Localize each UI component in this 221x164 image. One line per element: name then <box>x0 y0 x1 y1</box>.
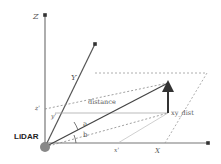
angle-b-arc <box>74 135 76 143</box>
angle-b-label: b <box>83 131 88 139</box>
distance-label: distance <box>88 98 116 106</box>
y-axis <box>45 44 95 147</box>
lidar-geometry-diagram: Z Y X z' y' x' distance xy_dist a b LiDA… <box>0 0 221 164</box>
y-prime-label: y' <box>50 112 56 120</box>
distance-vector <box>45 83 168 147</box>
z-prime-label: z' <box>34 104 40 111</box>
lidar-label: LiDAR <box>14 132 39 141</box>
z-axis-label: Z <box>32 12 39 21</box>
x-axis-label: X <box>154 147 161 155</box>
plane-right-edge <box>165 73 207 143</box>
angle-a-label: a <box>83 120 87 128</box>
angle-a-arc <box>74 122 78 130</box>
xy-projection-line <box>45 113 168 147</box>
x-prime-projection <box>118 113 168 143</box>
y-axis-label: Y <box>71 73 77 82</box>
x-prime-label: x' <box>114 146 119 153</box>
lidar-sensor-dot <box>40 142 50 152</box>
xy-dist-label: xy_dist <box>171 109 194 117</box>
